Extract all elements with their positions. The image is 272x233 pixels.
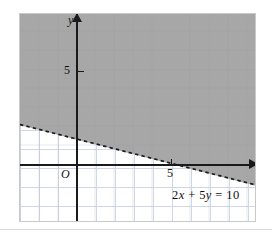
figure-bottom-divider [0, 229, 272, 230]
equation-coefficient-y: 5 [199, 188, 206, 202]
equation-variable-x: x [179, 188, 185, 202]
equation-variable-y: y [206, 188, 212, 202]
equation-equals-sign: = [215, 188, 222, 202]
origin-label: O [61, 168, 70, 180]
x-axis-tick-label-5: 5 [167, 167, 173, 179]
y-axis-label: y [68, 14, 73, 26]
equation-plus-sign: + [188, 188, 195, 202]
graph-plot-area: y x O 5 5 2x + 5y = 10 [19, 13, 256, 222]
figure-container: y x O 5 5 2x + 5y = 10 [0, 0, 272, 233]
equation-value: 10 [226, 188, 239, 202]
y-axis-tick-label-5: 5 [64, 64, 70, 76]
equation-label: 2x + 5y = 10 [172, 189, 240, 202]
equation-coefficient-x: 2 [172, 188, 179, 202]
